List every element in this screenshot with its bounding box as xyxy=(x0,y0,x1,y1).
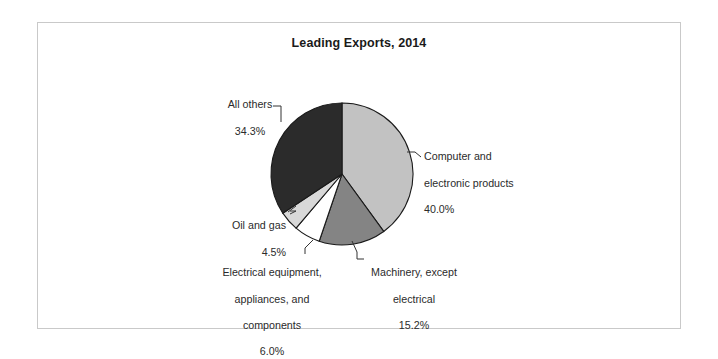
slice-label-line3: components xyxy=(243,319,301,331)
slice-label-computer-and-electronic-products: Computer and electronic products 40.0% xyxy=(424,137,554,229)
slice-percent: 15.2% xyxy=(362,319,466,332)
slice-label-line1: Computer and xyxy=(424,150,492,162)
slice-percent: 6.0% xyxy=(206,345,338,358)
slice-label-line1: Oil and gas xyxy=(232,219,286,231)
slice-label-line2: electrical xyxy=(393,293,435,305)
slice-label-line1: Machinery, except xyxy=(371,266,457,278)
leader-line-electrical-equipment xyxy=(305,240,313,254)
slice-label-line2: electronic products xyxy=(424,177,514,189)
slice-percent: 40.0% xyxy=(424,203,554,216)
slice-label-line1: All others xyxy=(228,98,273,110)
slice-label-oil-and-gas: Oil and gas 4.5% xyxy=(198,206,286,272)
slice-label-all-others: All others 34.3% xyxy=(202,85,298,151)
slice-percent: 34.3% xyxy=(202,125,298,138)
slice-label-line2: appliances, and xyxy=(235,293,310,305)
slice-label-machinery-except-electrical: Machinery, except electrical 15.2% xyxy=(362,253,466,345)
slice-percent: 4.5% xyxy=(198,246,286,259)
